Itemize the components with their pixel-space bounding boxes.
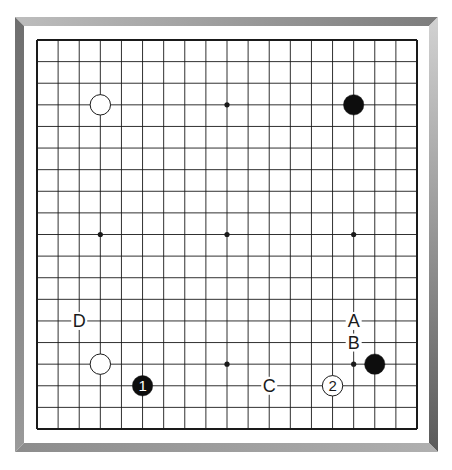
star-point — [224, 362, 229, 367]
star-point — [351, 362, 356, 367]
stone-body — [343, 95, 363, 115]
star-point — [98, 232, 103, 237]
white-stone[interactable] — [90, 354, 110, 374]
star-point — [351, 232, 356, 237]
frame-right-bevel — [429, 17, 438, 452]
move-number: 2 — [328, 377, 336, 394]
frame-top-bevel — [15, 17, 438, 26]
marker-label: C — [263, 376, 276, 396]
stone-body — [90, 354, 110, 374]
frame-bottom-bevel — [15, 443, 438, 452]
go-board: DABC 12 — [0, 0, 452, 470]
white-stone-2[interactable]: 2 — [322, 376, 342, 396]
go-board-diagram: DABC 12 — [0, 0, 452, 470]
marker-b[interactable]: B — [346, 333, 362, 353]
star-point — [224, 232, 229, 237]
black-stone[interactable] — [365, 354, 385, 374]
marker-label: D — [73, 311, 86, 331]
frame-left-bevel — [15, 17, 24, 452]
white-stone[interactable] — [90, 95, 110, 115]
position-markers: DABC — [71, 311, 361, 396]
black-stone-1[interactable]: 1 — [132, 376, 152, 396]
marker-a[interactable]: A — [346, 311, 362, 331]
marker-label: B — [348, 333, 360, 353]
marker-c[interactable]: C — [261, 376, 277, 396]
marker-label: A — [348, 311, 360, 331]
marker-d[interactable]: D — [71, 311, 87, 331]
move-number: 1 — [138, 377, 146, 394]
stones: 12 — [90, 95, 385, 396]
stone-body — [90, 95, 110, 115]
black-stone[interactable] — [343, 95, 363, 115]
star-point — [224, 102, 229, 107]
stone-body — [365, 354, 385, 374]
